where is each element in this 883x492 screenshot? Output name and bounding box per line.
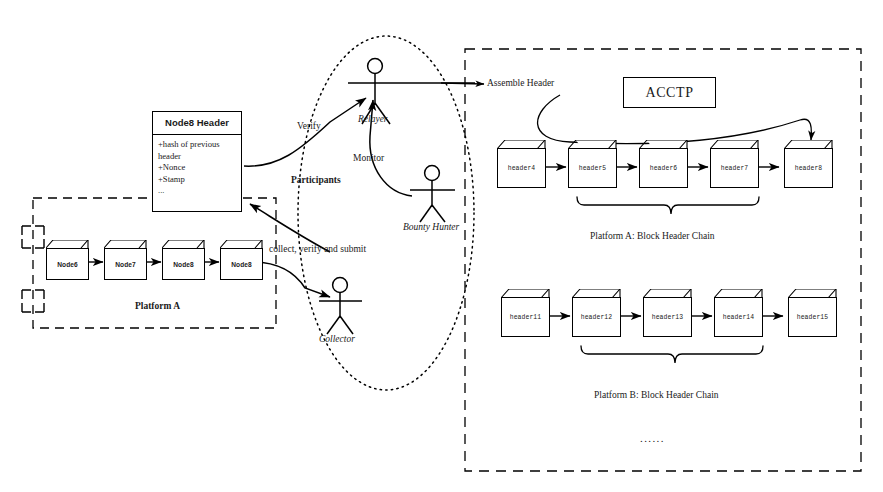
verify-flow-arrow <box>244 98 366 166</box>
node8-header-class-title: Node8 Header <box>153 112 241 135</box>
header-block[interactable]: header11 <box>501 289 550 337</box>
relayer-label: Relayer <box>358 114 388 124</box>
node-block-label: Node8 <box>173 261 194 268</box>
chain-a-brace <box>577 197 759 214</box>
node-block-face: Node8 <box>162 248 205 280</box>
node8-header-class-box[interactable]: Node8 Header +hash of previous header +N… <box>152 111 242 212</box>
header-block-label: header14 <box>723 314 754 321</box>
header-block-face: header15 <box>788 297 837 337</box>
collector-label: Collector <box>319 334 355 344</box>
header-block-face: header14 <box>714 297 763 337</box>
attribute-line: +Nonce <box>158 162 237 174</box>
header-block[interactable]: header8 <box>784 140 833 188</box>
header-block[interactable]: header15 <box>788 289 837 337</box>
header-block-face: header8 <box>784 148 833 188</box>
node-block-face: Node7 <box>104 248 147 280</box>
collect-verify-submit-arrow <box>252 262 330 297</box>
header-block-label: header12 <box>581 314 612 321</box>
verify-flow-label: Verify <box>297 121 321 131</box>
header-block[interactable]: header4 <box>497 140 546 188</box>
header-block[interactable]: header12 <box>572 289 621 337</box>
header-block-label: header8 <box>795 165 823 172</box>
header-block[interactable]: header7 <box>710 140 759 188</box>
header-block-face: header7 <box>710 148 759 188</box>
header-block-face: header6 <box>639 148 688 188</box>
header-block[interactable]: header6 <box>639 140 688 188</box>
header-block-label: header15 <box>797 314 828 321</box>
chain-a-caption: Platform A: Block Header Chain <box>590 231 715 241</box>
header-block-label: header4 <box>508 165 536 172</box>
header-block-label: header11 <box>510 314 541 321</box>
header-block[interactable]: header14 <box>714 289 763 337</box>
node-block-face: Node6 <box>46 248 89 280</box>
node-block[interactable]: Node6 <box>46 240 89 280</box>
acctp-title-box: ACCTP <box>623 77 716 108</box>
bounty-hunter-label: Bounty Hunter <box>403 222 459 232</box>
chain-b-caption: Platform B: Block Header Chain <box>594 390 719 400</box>
collect-verify-submit-label: collect, verify and submit <box>269 244 366 254</box>
header-block-face: header5 <box>568 148 617 188</box>
more-chains-ellipsis: ...... <box>640 432 665 444</box>
node-block[interactable]: Node7 <box>104 240 147 280</box>
assemble-header-arrow <box>441 83 484 84</box>
attribute-line: ... <box>158 185 237 197</box>
chain-b-brace <box>581 346 763 363</box>
node-block-label: Node8 <box>231 261 252 268</box>
acctp-title-label: ACCTP <box>645 85 693 101</box>
attribute-line: +hash of previous <box>158 139 237 151</box>
attribute-line: +Stamp <box>158 174 237 186</box>
collector-actor-figure <box>319 278 362 334</box>
header-block-label: header7 <box>721 165 749 172</box>
header-block-face: header4 <box>497 148 546 188</box>
diagram-canvas: Node8 Header +hash of previous header +N… <box>0 0 883 492</box>
node-block[interactable]: Node8 <box>162 240 205 280</box>
header-block-face: header13 <box>643 297 692 337</box>
acctp-panel-boundary <box>465 49 861 471</box>
header-block-face: header12 <box>572 297 621 337</box>
header-block-label: header13 <box>652 314 683 321</box>
node8-header-attributes: +hash of previous header +Nonce +Stamp .… <box>153 135 241 197</box>
platform-a-caption: Platform A <box>135 301 180 311</box>
header-block[interactable]: header5 <box>568 140 617 188</box>
node-block-label: Node6 <box>57 261 78 268</box>
node-block-face: Node8 <box>220 248 263 280</box>
assemble-header-label: Assemble Header <box>487 78 554 88</box>
header-block-label: header5 <box>579 165 607 172</box>
participants-group-label: Participants <box>291 175 341 185</box>
header-block-face: header11 <box>501 297 550 337</box>
header-block-label: header6 <box>650 165 678 172</box>
header-block[interactable]: header13 <box>643 289 692 337</box>
monitor-flow-label: Monitor <box>353 153 384 163</box>
node-block[interactable]: Node8 <box>220 240 263 280</box>
node-block-label: Node7 <box>115 261 136 268</box>
bounty-hunter-actor-figure <box>410 166 455 222</box>
attribute-line: header <box>158 151 237 163</box>
